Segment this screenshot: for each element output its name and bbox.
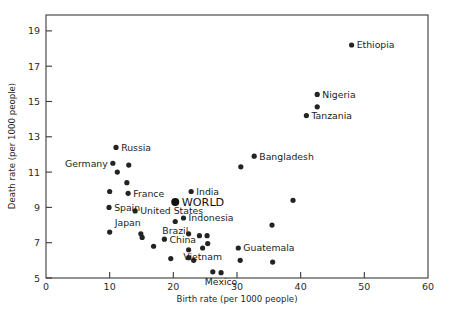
data-point-label-japan: Japan [114,217,141,228]
x-tick-label: 0 [43,281,49,292]
y-tick-label: 17 [28,61,40,72]
data-point-label-germany: Germany [65,158,108,169]
data-point-label-spain: Spain [114,202,140,213]
data-point-ethiopia [349,42,354,47]
data-point [124,180,129,185]
scatter-chart: 5791113151719 0102030405060 EthiopiaNige… [0,0,450,319]
data-point [270,260,275,265]
data-point-label-ethiopia: Ethiopia [357,39,395,50]
data-point-label-guatemala: Guatemala [243,242,294,253]
data-point [315,104,320,109]
data-point-vietnam [200,245,205,250]
y-tick-label: 19 [28,25,40,36]
y-tick-label: 13 [28,131,40,142]
data-point [238,164,243,169]
x-tick-label: 20 [167,281,179,292]
data-point-china [162,237,167,242]
data-point-brazil [173,219,178,224]
data-point-nigeria [315,92,320,97]
data-point [269,222,274,227]
data-point [115,169,120,174]
x-tick-label: 40 [295,281,307,292]
y-tick-label: 15 [28,96,40,107]
data-point-germany [110,161,115,166]
data-point-label-china: China [170,234,197,245]
data-point-label-indonesia: Indonesia [189,212,234,223]
x-tick-label: 10 [104,281,116,292]
data-point-label-bangladesh: Bangladesh [259,151,314,162]
data-point-france [126,191,131,196]
data-point [210,269,215,274]
x-axis-title: Birth rate (per 1000 people) [177,294,298,304]
data-point [204,233,209,238]
data-point [140,235,145,240]
data-point [290,198,295,203]
chart-svg: 5791113151719 0102030405060 EthiopiaNige… [0,0,450,319]
data-point-label-russia: Russia [121,142,151,153]
data-point-russia [113,145,118,150]
data-point [168,256,173,261]
data-point-label-vietnam: Vietnam [183,251,222,262]
data-point-label-tanzania: Tanzania [310,110,351,121]
y-tick-label: 9 [34,202,40,213]
data-point [238,258,243,263]
data-point [126,162,131,167]
y-tick-label: 11 [28,167,40,178]
data-point-guatemala [236,245,241,250]
y-axis-title: Death rate (per 1000 people) [7,83,17,209]
data-point-japan [107,230,112,235]
y-tick-label: 7 [34,237,40,248]
data-point [151,244,156,249]
data-point-bangladesh [252,154,257,159]
data-point-label-world: WORLD [182,196,225,209]
data-point [197,233,202,238]
data-point-tanzania [304,113,309,118]
data-point-label-france: France [133,188,164,199]
data-point-mexico [218,270,223,275]
data-point-spain [106,205,111,210]
data-point [205,241,210,246]
y-tick-label: 5 [34,273,40,284]
x-tick-label: 60 [422,281,434,292]
data-point-label-mexico: Mexico [205,276,238,287]
data-point-label-nigeria: Nigeria [322,89,355,100]
data-point-india [189,189,194,194]
x-tick-label: 50 [358,281,370,292]
data-point [107,189,112,194]
